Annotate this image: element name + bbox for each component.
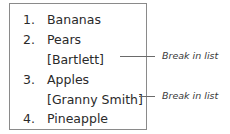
callout-line <box>120 56 155 57</box>
callout-line <box>139 96 155 97</box>
callout-label: Break in list <box>162 50 218 62</box>
list-item-text: Pineapple <box>47 109 108 128</box>
list-item-text: Bananas <box>47 10 101 29</box>
list-item-text: [Bartlett] <box>47 50 104 69</box>
list-item-number: 3. <box>23 70 35 89</box>
numbered-list-box: 1. Bananas 2. Pears [Bartlett] 3. Apples… <box>9 3 147 130</box>
callout-label: Break in list <box>162 90 218 102</box>
list-item-number: 4. <box>23 109 35 128</box>
list-item-text: Apples <box>47 70 89 89</box>
list-item-number: 1. <box>23 10 35 29</box>
list-item-text: [Granny Smith] <box>47 90 143 109</box>
list-item-number: 2. <box>23 30 35 49</box>
list-item-text: Pears <box>47 30 81 49</box>
